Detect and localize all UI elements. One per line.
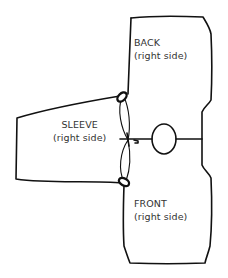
back-subtitle: (right side) [134, 49, 187, 62]
sleeve-title: SLEEVE [53, 118, 106, 131]
back-title: BACK [134, 36, 187, 49]
upper-stitch-marker [116, 91, 129, 104]
body-left-upper-edge [128, 18, 131, 94]
back-label: BACK (right side) [134, 36, 187, 62]
assembly-diagram [0, 0, 228, 278]
neck-opening [152, 124, 176, 154]
sleeve-label: SLEEVE (right side) [53, 118, 106, 144]
lower-stitch-marker [117, 176, 130, 188]
stitch-tab [134, 140, 138, 143]
sleeve-subtitle: (right side) [53, 131, 106, 144]
front-label: FRONT (right side) [134, 197, 187, 223]
front-subtitle: (right side) [134, 210, 187, 223]
front-title: FRONT [134, 197, 187, 210]
upper-seam-curve [120, 97, 130, 140]
